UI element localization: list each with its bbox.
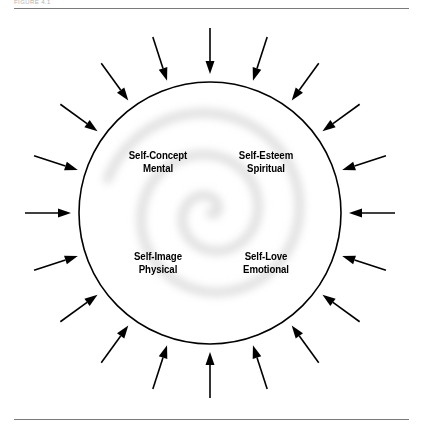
arrow-head-icon	[292, 87, 303, 100]
arrow-shaft	[153, 358, 163, 389]
arrow-shaft	[333, 302, 360, 321]
arrow-shaft	[299, 336, 318, 363]
arrow-head-icon	[253, 345, 262, 359]
arrow-head-icon	[206, 352, 215, 365]
arrow-head-icon	[159, 67, 168, 81]
arrow-head-icon	[349, 209, 362, 218]
arrow-shaft	[299, 63, 318, 90]
quadrant-secondary-label: Spiritual	[220, 162, 312, 175]
arrow-head-icon	[322, 295, 335, 306]
figure-container: FIGURE 4.1 Self-Concept Mental Self-Este…	[0, 0, 423, 435]
arrow-shaft	[153, 37, 163, 68]
arrow-head-icon	[84, 295, 97, 306]
arrow-head-icon	[117, 87, 128, 100]
quadrant-secondary-label: Mental	[112, 162, 204, 175]
arrow-shaft	[34, 156, 65, 166]
arrow-head-icon	[64, 256, 78, 265]
arrow-shaft	[60, 104, 87, 123]
arrow-shaft	[257, 37, 267, 68]
arrow-head-icon	[292, 325, 303, 338]
arrow-shaft	[60, 302, 87, 321]
arrow-shaft	[355, 156, 386, 166]
arrow-head-icon	[117, 325, 128, 338]
arrow-head-icon	[159, 345, 168, 359]
arrow-shaft	[333, 104, 360, 123]
quadrant-secondary-label: Physical	[112, 263, 204, 276]
arrow-head-icon	[253, 67, 262, 81]
arrow-head-icon	[342, 162, 356, 171]
quadrant-secondary-label: Emotional	[220, 263, 312, 276]
arrow-shaft	[355, 260, 386, 270]
arrow-head-icon	[342, 256, 356, 265]
quadrant-primary-label: Self-Concept	[112, 149, 204, 162]
quadrant-label-self-esteem: Self-Esteem Spiritual	[220, 149, 312, 175]
arrow-head-icon	[206, 61, 215, 74]
arrow-head-icon	[84, 120, 97, 131]
arrow-shaft	[101, 63, 120, 90]
arrow-head-icon	[64, 162, 78, 171]
quadrant-label-self-love: Self-Love Emotional	[220, 250, 312, 276]
self-concept-diagram	[0, 0, 423, 435]
arrow-shaft	[257, 358, 267, 389]
quadrant-primary-label: Self-Love	[220, 250, 312, 263]
quadrant-primary-label: Self-Image	[112, 250, 204, 263]
quadrant-label-self-concept: Self-Concept Mental	[112, 149, 204, 175]
bottom-horizontal-rule	[14, 419, 409, 420]
quadrant-label-self-image: Self-Image Physical	[112, 250, 204, 276]
quadrant-primary-label: Self-Esteem	[220, 149, 312, 162]
arrow-shaft	[34, 260, 65, 270]
arrow-head-icon	[322, 120, 335, 131]
arrow-shaft	[101, 336, 120, 363]
arrow-head-icon	[58, 209, 71, 218]
